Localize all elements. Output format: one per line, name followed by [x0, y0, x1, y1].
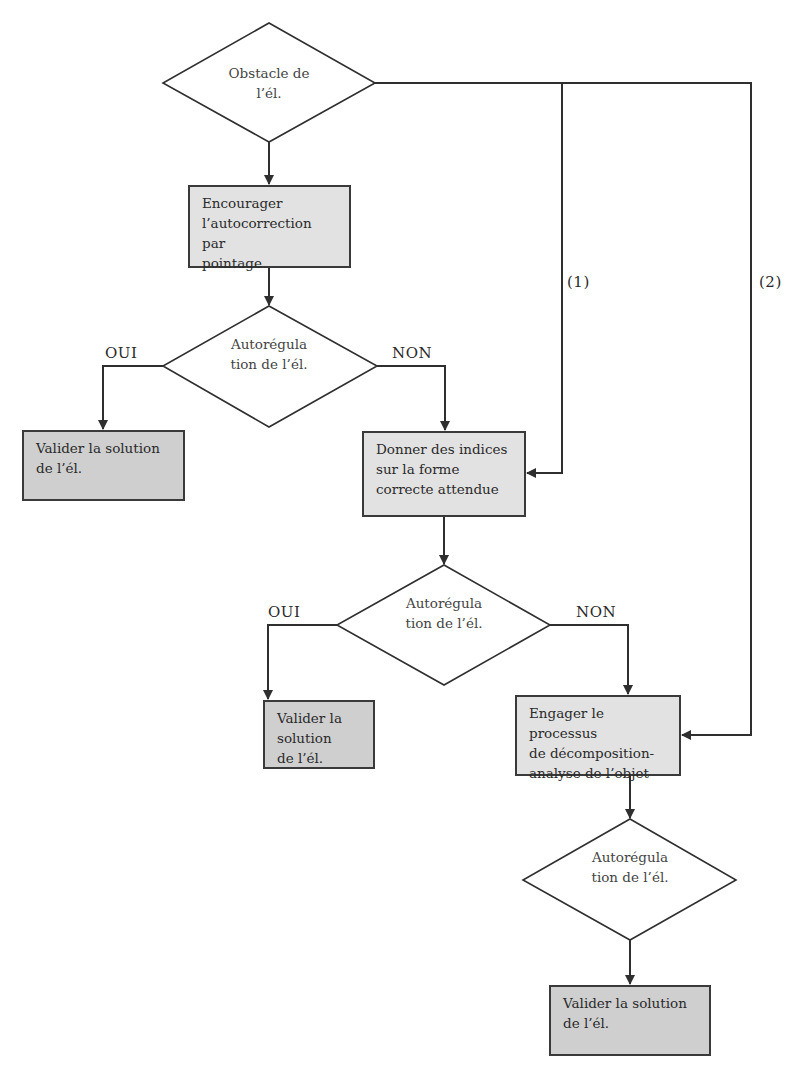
box-validate-solution-1: Valider la solution de l’él.: [22, 430, 185, 501]
label-branch-1: (1): [567, 273, 590, 291]
label-non-1: NON: [392, 344, 432, 362]
flowchart-connectors: [0, 0, 797, 1076]
autoregulation-1-line-2: tion de l’él.: [199, 354, 339, 374]
validate-2-line-1: Valider la solution: [277, 708, 363, 748]
autoregulation-1-text: Autorégula tion de l’él.: [199, 334, 339, 374]
encourage-line-3: pointage: [202, 253, 339, 273]
validate-3-line-1: Valider la solution: [563, 993, 699, 1013]
validate-2-line-2: de l’él.: [277, 748, 363, 768]
hints-line-1: Donner des indices: [376, 439, 514, 459]
validate-3-line-2: de l’él.: [563, 1013, 699, 1033]
engage-line-1: Engager le processus: [529, 703, 669, 743]
obstacle-text-line-1: Obstacle de: [199, 63, 339, 83]
connector-branch-1: [375, 83, 562, 473]
box-validate-solution-2: Valider la solution de l’él.: [263, 700, 375, 769]
label-branch-2: (2): [759, 273, 782, 291]
box-encourage-autocorrection: Encourager l’autocorrection par pointage: [188, 185, 351, 268]
obstacle-text: Obstacle de l’él.: [199, 63, 339, 103]
connector-decision1-oui: [103, 366, 163, 429]
label-oui-2: OUI: [268, 603, 300, 621]
connector-decision1-non: [377, 366, 445, 430]
encourage-line-1: Encourager: [202, 193, 339, 213]
validate-1-line-2: de l’él.: [36, 458, 173, 478]
engage-line-3: analyse de l’objet: [529, 763, 669, 783]
hints-line-2: sur la forme: [376, 459, 514, 479]
label-non-2: NON: [576, 603, 616, 621]
box-engage-decomposition: Engager le processus de décomposition- a…: [515, 695, 681, 776]
label-oui-1: OUI: [105, 344, 137, 362]
connector-decision2-oui: [268, 625, 337, 699]
box-give-hints: Donner des indices sur la forme correcte…: [362, 431, 526, 517]
engage-line-2: de décomposition-: [529, 743, 669, 763]
encourage-line-2: l’autocorrection par: [202, 213, 339, 253]
autoregulation-3-line-2: tion de l’él.: [560, 867, 700, 887]
autoregulation-2-text: Autorégula tion de l’él.: [374, 593, 514, 633]
autoregulation-1-line-1: Autorégula: [199, 334, 339, 354]
autoregulation-2-line-1: Autorégula: [374, 593, 514, 613]
obstacle-text-line-2: l’él.: [199, 83, 339, 103]
hints-line-3: correcte attendue: [376, 479, 514, 499]
connector-decision2-non: [550, 625, 628, 694]
autoregulation-2-line-2: tion de l’él.: [374, 613, 514, 633]
connector-branch-2: [562, 83, 751, 735]
validate-1-line-1: Valider la solution: [36, 438, 173, 458]
box-validate-solution-3: Valider la solution de l’él.: [549, 985, 711, 1056]
autoregulation-3-line-1: Autorégula: [560, 847, 700, 867]
autoregulation-3-text: Autorégula tion de l’él.: [560, 847, 700, 887]
